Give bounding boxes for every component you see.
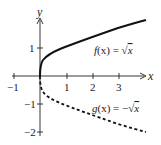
y-tick-label: −2 [24,126,36,138]
y-tick-label: 1 [29,42,35,54]
y-tick-label: −1 [24,98,36,110]
sqrt-graph: x y −1 1 2 3 1 −1 −2 f(x) = √x g(x) = −√… [0,0,161,145]
y-axis-label: y [36,5,43,19]
g-label: g(x) = −√x [92,102,139,115]
x-tick-label: 2 [90,81,96,93]
f-label: f(x) = √x [94,44,133,57]
x-tick-label: 3 [116,81,122,93]
x-tick-label: −1 [7,81,19,93]
x-axis-label: x [147,69,154,83]
x-tick-label: 1 [64,81,70,93]
